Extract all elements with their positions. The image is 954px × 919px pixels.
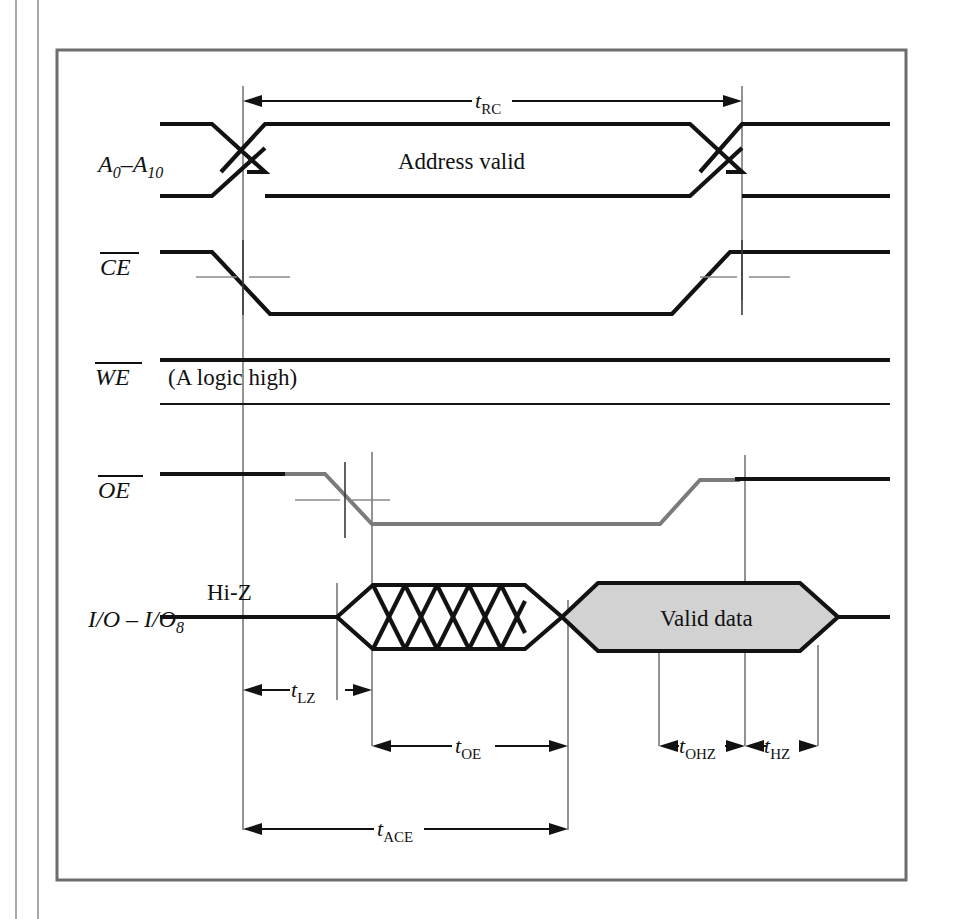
page-background — [0, 0, 954, 919]
io-transition-region — [337, 585, 562, 649]
address-label-dash: – — [120, 151, 134, 177]
figure-root: A0–A10 Address valid tRC CE — [0, 0, 954, 919]
thz-subscript: HZ — [770, 746, 790, 762]
io-label-dash: – — [125, 606, 139, 632]
valid-data-label: Valid data — [660, 606, 753, 631]
tohz-subscript: OHZ — [685, 746, 716, 762]
timing-diagram-svg: A0–A10 Address valid tRC CE — [0, 0, 954, 919]
trc-subscript: RC — [481, 101, 501, 117]
address-label-sub0: 0 — [113, 164, 121, 181]
tlz-subscript: LZ — [297, 690, 315, 706]
we-label-text: WE — [95, 364, 130, 390]
address-valid-label: Address valid — [398, 149, 526, 174]
toe-subscript: OE — [461, 746, 481, 762]
address-label-sub1: 10 — [147, 164, 163, 181]
address-label-a1: A — [131, 151, 148, 177]
svg-text:I/O – I/O8: I/O – I/O8 — [87, 606, 184, 636]
oe-label-text: OE — [98, 477, 130, 503]
hi-z-label: Hi-Z — [207, 580, 252, 605]
address-label-a0: A — [96, 151, 113, 177]
io-label-sub8: 8 — [176, 619, 184, 636]
tace-subscript: ACE — [383, 829, 413, 845]
we-logic-high-label: (A logic high) — [168, 365, 297, 390]
io-label-io1: I/O — [87, 606, 120, 632]
ce-label-text: CE — [100, 254, 131, 280]
signal-label-io: I/O – I/O8 — [87, 606, 184, 636]
